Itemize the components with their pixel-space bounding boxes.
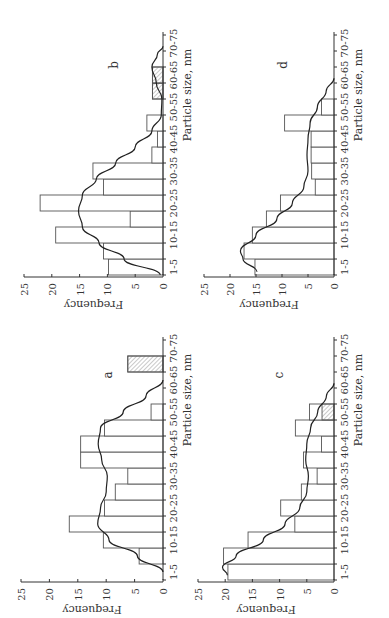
- category-tick-label: 60-65: [339, 61, 350, 90]
- y-axis-label: Frequency: [238, 298, 298, 311]
- y-axis-label: Frequency: [61, 603, 121, 616]
- bar-a-25-30: [115, 484, 163, 500]
- bar-b-15-20: [130, 211, 163, 227]
- bar-d-10-15: [252, 227, 334, 243]
- category-tick-label: 60-65: [168, 366, 179, 395]
- x-axis-label: Particle size, nm: [352, 48, 365, 141]
- bar-a-20-25: [104, 500, 163, 516]
- category-tick-label: 50-55: [168, 93, 179, 122]
- bar-a-40-45: [81, 436, 163, 452]
- bar-d-50-55: [322, 99, 334, 115]
- bar-a-45-50: [104, 420, 163, 436]
- category-tick-label: 1-5: [168, 259, 179, 275]
- bar-c-30-35: [317, 468, 334, 484]
- category-tick-label: 1-5: [339, 564, 350, 580]
- frequency-tick-label: 25: [16, 588, 27, 601]
- bar-b-20-25: [40, 195, 163, 211]
- y-axis-label: Frequency: [235, 603, 295, 616]
- bar-d-1-5: [255, 259, 334, 275]
- hatched-bar-c-50-55: [322, 404, 334, 420]
- panel-label: d: [276, 61, 290, 69]
- frequency-tick-label: 5: [130, 283, 141, 289]
- frequency-tick-label: 25: [199, 283, 210, 296]
- bar-c-1-5: [228, 564, 334, 580]
- category-tick-label: 20-25: [339, 189, 350, 218]
- bar-c-45-50: [295, 420, 334, 436]
- frequency-tick-label: 25: [19, 283, 30, 296]
- frequency-tick-label: 10: [101, 588, 112, 601]
- frequency-tick-label: 0: [158, 283, 169, 289]
- panel-label: b: [107, 61, 121, 69]
- panel-a: 05101520251-510-1520-2530-3540-4550-5560…: [16, 334, 194, 616]
- bar-a-10-15: [103, 532, 163, 548]
- bar-d-25-30: [315, 179, 334, 195]
- bar-a-15-20: [69, 516, 163, 532]
- category-tick-label: 10-15: [339, 526, 350, 555]
- category-tick-label: 70-75: [339, 29, 350, 58]
- bar-b-40-45: [157, 131, 163, 147]
- bar-c-40-45: [321, 436, 334, 452]
- panel-label: a: [101, 371, 115, 378]
- frequency-tick-label: 0: [329, 588, 340, 594]
- category-tick-label: 50-55: [168, 398, 179, 427]
- frequency-tick-label: 15: [247, 588, 258, 601]
- category-tick-label: 40-45: [168, 430, 179, 459]
- category-tick-label: 1-5: [339, 259, 350, 275]
- category-tick-label: 30-35: [168, 157, 179, 186]
- category-tick-label: 70-75: [168, 29, 179, 58]
- category-tick-label: 20-25: [168, 189, 179, 218]
- category-tick-label: 40-45: [339, 430, 350, 459]
- bar-c-35-40: [304, 452, 334, 468]
- y-axis-label: Frequency: [63, 298, 123, 311]
- frequency-tick-label: 5: [303, 283, 314, 289]
- category-tick-label: 50-55: [339, 93, 350, 122]
- frequency-tick-label: 15: [75, 283, 86, 296]
- bar-b-10-15: [56, 227, 163, 243]
- bar-a-35-40: [81, 452, 163, 468]
- frequency-tick-label: 20: [225, 283, 236, 296]
- x-axis-label: Particle size, nm: [181, 48, 194, 141]
- hatched-bar-a-65-70: [128, 356, 163, 372]
- bar-d-35-40: [311, 147, 334, 163]
- category-tick-label: 20-25: [168, 494, 179, 523]
- category-tick-label: 30-35: [339, 157, 350, 186]
- panel-label: c: [272, 371, 286, 378]
- frequency-tick-label: 10: [102, 283, 113, 296]
- frequency-tick-label: 5: [302, 588, 313, 594]
- frequency-tick-label: 20: [47, 283, 58, 296]
- bar-c-15-20: [295, 516, 334, 532]
- frequency-tick-label: 0: [158, 588, 169, 594]
- frequency-tick-label: 15: [73, 588, 84, 601]
- category-tick-label: 20-25: [339, 494, 350, 523]
- bar-d-5-10: [244, 243, 334, 259]
- panel-d: 05101520251-510-1520-2530-3540-4550-5560…: [199, 29, 365, 311]
- bar-c-5-10: [224, 548, 334, 564]
- frequency-tick-label: 20: [220, 588, 231, 601]
- category-tick-label: 10-15: [339, 221, 350, 250]
- bar-b-25-30: [104, 179, 163, 195]
- frequency-tick-label: 25: [193, 588, 204, 601]
- panel-c: 05101520251-510-1520-2530-3540-4550-5560…: [193, 334, 365, 616]
- bar-b-30-35: [93, 163, 163, 179]
- category-tick-label: 60-65: [168, 61, 179, 90]
- panel-b: 05101520251-510-1520-2530-3540-4550-5560…: [19, 29, 194, 311]
- bar-c-20-25: [281, 500, 334, 516]
- x-axis-label: Particle size, nm: [181, 353, 194, 446]
- category-tick-label: 30-35: [168, 462, 179, 491]
- figure-canvas: 05101520251-510-1520-2530-3540-4550-5560…: [0, 0, 389, 618]
- bar-b-35-40: [152, 147, 163, 163]
- bar-d-40-45: [311, 131, 334, 147]
- bar-a-30-35: [128, 468, 163, 484]
- frequency-tick-label: 0: [329, 283, 340, 289]
- category-tick-label: 70-75: [168, 334, 179, 363]
- frequency-tick-label: 15: [251, 283, 262, 296]
- category-tick-label: 40-45: [339, 125, 350, 154]
- category-tick-label: 50-55: [339, 398, 350, 427]
- bar-b-1-5: [109, 259, 163, 275]
- category-tick-label: 30-35: [339, 462, 350, 491]
- x-axis-label: Particle size, nm: [352, 353, 365, 446]
- category-tick-label: 70-75: [339, 334, 350, 363]
- category-tick-label: 1-5: [168, 564, 179, 580]
- bar-a-50-55: [151, 404, 163, 420]
- category-tick-label: 10-15: [168, 526, 179, 555]
